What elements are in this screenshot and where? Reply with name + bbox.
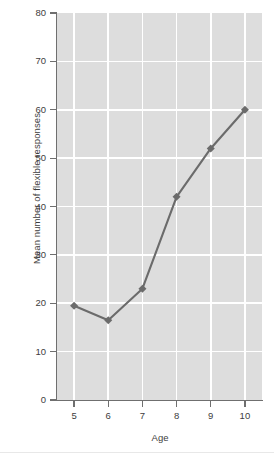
y-axis-tick-label: 70 [6, 56, 46, 66]
y-axis-tick-label: 0 [6, 395, 46, 405]
y-axis-tick [50, 399, 56, 400]
x-axis-tick-label: 9 [196, 411, 226, 421]
y-axis-tick-label: 40 [6, 202, 46, 212]
plot-area [57, 13, 262, 400]
y-axis-tick-label: 20 [6, 298, 46, 308]
x-axis-tick [108, 401, 109, 407]
gridline-horizontal [57, 206, 262, 208]
y-axis-tick [50, 109, 56, 110]
gridline-horizontal [57, 109, 262, 111]
y-axis-tick [50, 303, 56, 304]
gridline-vertical [244, 13, 246, 400]
x-axis-line [56, 400, 263, 401]
y-axis-tick [50, 206, 56, 207]
x-axis-tick-label: 5 [59, 411, 89, 421]
y-axis-tick [50, 351, 56, 352]
y-axis-tick-label: 60 [6, 105, 46, 115]
y-axis-tick [50, 61, 56, 62]
x-axis-tick [142, 401, 143, 407]
bottom-rule [0, 452, 274, 453]
y-axis-tick-label: 10 [6, 347, 46, 357]
gridline-horizontal [57, 254, 262, 256]
gridline-vertical [210, 13, 212, 400]
y-axis-tick-label: 80 [6, 8, 46, 18]
gridline-horizontal [57, 351, 262, 353]
y-axis-tick [50, 254, 56, 255]
y-axis-tick [50, 12, 56, 13]
y-axis-line [56, 12, 57, 401]
gridline-horizontal [57, 61, 262, 63]
x-axis-tick-label: 8 [162, 411, 192, 421]
y-axis-tick [50, 158, 56, 159]
gridline-horizontal [57, 302, 262, 304]
y-axis-tick-label: 30 [6, 250, 46, 260]
gridline-vertical [73, 13, 75, 400]
gridline-vertical [142, 13, 144, 400]
x-axis-tick [244, 401, 245, 407]
x-axis-tick-label: 10 [230, 411, 260, 421]
gridline-horizontal [57, 157, 262, 159]
x-axis-tick-label: 7 [127, 411, 157, 421]
x-axis-tick [73, 401, 74, 407]
x-axis-tick [210, 401, 211, 407]
y-axis-tick-label: 50 [6, 153, 46, 163]
gridline-vertical [176, 13, 178, 400]
gridline-vertical [107, 13, 109, 400]
x-axis-title: Age [57, 432, 263, 443]
x-axis-tick-label: 6 [93, 411, 123, 421]
chart-figure: Mean number of flexible responses 010203… [0, 0, 274, 455]
x-axis-tick [176, 401, 177, 407]
